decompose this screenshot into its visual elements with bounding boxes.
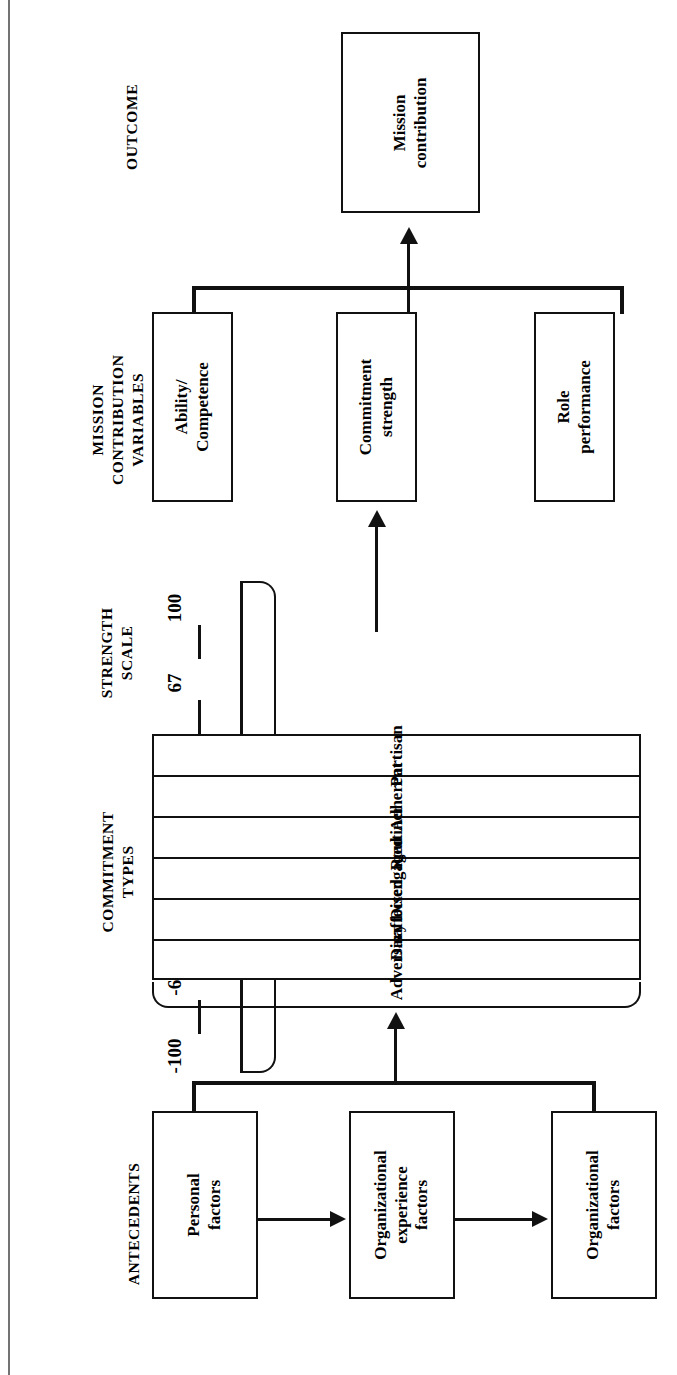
mcv-box-ability-label: Ability/Competence (172, 362, 213, 452)
mcv-box-role-performance: Roleperformance (534, 312, 615, 502)
band-title-outcome: OUTCOME (123, 47, 141, 207)
connector-orgexp-to-org-arrowhead (532, 1211, 548, 1227)
antecedent-box-organizational-factors: Organizationalfactors (551, 1111, 657, 1299)
band-title-types-line1: COMMITMENT (98, 767, 118, 977)
scale-tick-100 (198, 625, 201, 659)
antecedent-box-organizational-experience-factors: Organizationalexperiencefactors (349, 1111, 455, 1299)
connector-antecedents-to-types-arrowhead (387, 1012, 405, 1029)
page-scan-edge (8, 0, 10, 1375)
outcome-box-mission-contribution: Missioncontribution (341, 32, 480, 213)
antecedent-box-personal-label: Personalfactors (184, 1173, 225, 1236)
connector-antecedents-bus (192, 1081, 596, 1085)
connector-personal-to-orgexp-arrowhead (330, 1211, 346, 1227)
outcome-box-label: Missioncontribution (390, 77, 431, 168)
band-title-mcv-line1: MISSION (88, 315, 108, 525)
band-title-scale-line1: STRENGTH (97, 563, 117, 743)
connector-mcv-branch-ability (192, 286, 196, 314)
scale-tick-67 (198, 700, 201, 734)
scale-label-67: 67 (164, 652, 186, 714)
antecedent-box-personal-factors: Personalfactors (152, 1111, 258, 1299)
band-title-commitment-types: COMMITMENT TYPES (98, 767, 138, 977)
antecedent-box-org-exp-label: Organizationalexperiencefactors (371, 1150, 433, 1260)
band-title-mcv-line2: CONTRIBUTION (108, 315, 128, 525)
mcv-box-commitment-strength: Commitmentstrength (336, 312, 417, 502)
band-title-antecedents: ANTECEDENTS (125, 1119, 143, 1329)
commitment-types-brace (152, 982, 641, 1008)
connector-mcv-to-outcome-arrowhead (400, 227, 418, 244)
mcv-box-role-label: Roleperformance (554, 360, 595, 453)
figure-canvas: OUTCOME MISSION CONTRIBUTION VARIABLES S… (0, 0, 677, 1375)
connector-mcv-branch-role (620, 286, 624, 314)
band-title-scale-line2: SCALE (117, 563, 137, 743)
mcv-box-commitment-label: Commitmentstrength (356, 359, 397, 455)
band-title-strength-scale: STRENGTH SCALE (97, 563, 137, 743)
connector-scale-to-commitment-stem (375, 570, 378, 632)
antecedent-box-org-label: Organizationalfactors (583, 1150, 624, 1260)
connector-mcv-branch-commitment (407, 286, 410, 314)
commitment-types-table: Partisan Adherent Routiner Disengaged Di… (152, 734, 641, 980)
mcv-box-ability-competence: Ability/Competence (152, 312, 233, 502)
band-title-types-line2: TYPES (118, 767, 138, 977)
connector-antecedents-branch-organizational (592, 1081, 596, 1113)
connector-antecedents-branch-personal (192, 1081, 196, 1113)
connector-personal-to-orgexp-stem (258, 1218, 331, 1221)
connector-scale-to-commitment-stem-upper (375, 524, 378, 572)
commitment-type-row-adversary: Adversary (154, 941, 639, 982)
connector-orgexp-to-org-stem (455, 1218, 533, 1221)
connector-mcv-to-outcome-stem (407, 243, 410, 288)
band-title-mcv-line3: VARIABLES (128, 315, 148, 525)
band-title-mission-contribution-variables: MISSION CONTRIBUTION VARIABLES (88, 315, 147, 525)
scale-label-neg100: -100 (164, 1015, 186, 1097)
connector-antecedents-to-types-stem (394, 1020, 397, 1082)
scale-label-100: 100 (164, 573, 186, 643)
